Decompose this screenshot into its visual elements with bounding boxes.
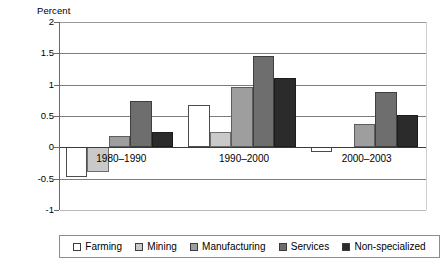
bar (231, 87, 253, 148)
legend-item[interactable]: Mining (135, 241, 176, 252)
x-axis-group-label: 1990–2000 (183, 153, 306, 165)
bar (253, 56, 275, 147)
legend-swatch-icon (342, 243, 350, 251)
x-axis-group-label: 2000–2003 (305, 153, 428, 165)
legend-swatch-icon (279, 243, 287, 251)
bar (375, 92, 397, 147)
gridline (60, 179, 426, 180)
y-axis-tick-label: -0.5 (14, 174, 54, 184)
legend-item-label: Services (291, 241, 329, 252)
plot-area: 1980–19901990–20002000–2003 (59, 22, 427, 210)
legend-item[interactable]: Farming (73, 241, 122, 252)
y-axis-tick-label: 1.5 (14, 48, 54, 58)
bar (130, 101, 152, 147)
bar (152, 132, 174, 148)
gridline (60, 22, 426, 23)
legend-item-label: Non-specialized (354, 241, 425, 252)
legend-swatch-icon (135, 243, 143, 251)
y-axis-title: Percent (37, 5, 70, 16)
legend-item[interactable]: Services (279, 241, 329, 252)
legend-item[interactable]: Manufacturing (190, 241, 265, 252)
legend-swatch-icon (190, 243, 198, 251)
legend-item-label: Manufacturing (202, 241, 265, 252)
x-axis-group-label: 1980–1990 (60, 153, 183, 165)
bar (274, 78, 296, 147)
legend-item[interactable]: Non-specialized (342, 241, 425, 252)
legend-item-label: Farming (85, 241, 122, 252)
y-axis-tick-label: 1 (14, 80, 54, 90)
gridline (60, 210, 426, 211)
bar (188, 105, 210, 148)
bar (109, 136, 131, 147)
bar (397, 115, 419, 148)
y-axis-tick-label: -1 (14, 205, 54, 215)
bar (354, 124, 376, 148)
y-axis-tick-mark (54, 210, 59, 211)
y-axis-tick-label: 2 (14, 17, 54, 27)
y-axis-tick-label: 0.5 (14, 111, 54, 121)
legend-swatch-icon (73, 243, 81, 251)
bar-chart: Percent 21.510.50-0.5-1 1980–19901990–20… (0, 0, 447, 270)
legend-item-label: Mining (147, 241, 176, 252)
zero-baseline (60, 147, 426, 148)
y-axis-tick-label: 0 (14, 142, 54, 152)
bar (210, 132, 232, 148)
gridline (60, 53, 426, 54)
gridline (60, 85, 426, 86)
chart-legend: FarmingMiningManufacturingServicesNon-sp… (59, 235, 440, 258)
